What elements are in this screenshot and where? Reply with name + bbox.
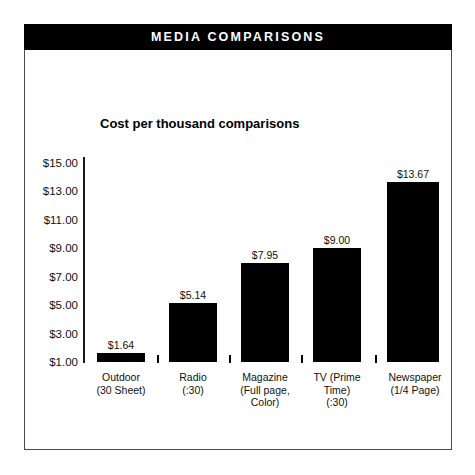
bar-radio[interactable] bbox=[169, 303, 217, 362]
category-line: Newspaper bbox=[377, 371, 453, 384]
x-axis-tick bbox=[229, 355, 231, 363]
bar-value-label: $5.14 bbox=[169, 289, 217, 301]
category-line: Outdoor bbox=[85, 371, 157, 384]
x-axis-tick bbox=[375, 355, 377, 363]
category-line: Radio bbox=[157, 371, 229, 384]
category-line: (1/4 Page) bbox=[377, 384, 453, 397]
category-line: (:30) bbox=[301, 396, 373, 409]
category-line: Color) bbox=[229, 396, 301, 409]
y-axis-tick-label: $15.00 bbox=[8, 157, 78, 169]
x-axis-tick bbox=[157, 355, 159, 363]
bar-chart-plot: $15.00 $13.00 $11.00 $9.00 $7.00 $5.00 $… bbox=[0, 0, 475, 475]
y-axis-tick-label: $3.00 bbox=[8, 328, 78, 340]
category-line: Time) bbox=[301, 384, 373, 397]
bar-value-label: $13.67 bbox=[387, 168, 439, 180]
category-line: (30 Sheet) bbox=[85, 384, 157, 397]
y-axis-tick-label: $11.00 bbox=[8, 214, 78, 226]
category-line: (:30) bbox=[157, 384, 229, 397]
bar-value-label: $7.95 bbox=[241, 249, 289, 261]
y-axis-tick-label: $1.00 bbox=[8, 356, 78, 368]
x-axis-category-label: TV (Prime Time) (:30) bbox=[301, 371, 373, 409]
y-axis-line bbox=[83, 157, 85, 363]
category-line: (Full page, bbox=[229, 384, 301, 397]
x-axis-category-label: Outdoor (30 Sheet) bbox=[85, 371, 157, 396]
y-axis-tick-label: $9.00 bbox=[8, 242, 78, 254]
x-axis-category-label: Newspaper (1/4 Page) bbox=[377, 371, 453, 396]
bar-newspaper[interactable] bbox=[387, 182, 439, 362]
y-axis-tick-label: $13.00 bbox=[8, 185, 78, 197]
category-line: Magazine bbox=[229, 371, 301, 384]
category-line: TV (Prime bbox=[301, 371, 373, 384]
x-axis-category-label: Radio (:30) bbox=[157, 371, 229, 396]
bar-magazine[interactable] bbox=[241, 263, 289, 362]
bar-tv[interactable] bbox=[313, 248, 361, 362]
x-axis-category-label: Magazine (Full page, Color) bbox=[229, 371, 301, 409]
bar-outdoor[interactable] bbox=[97, 353, 145, 362]
bar-value-label: $9.00 bbox=[313, 234, 361, 246]
y-axis-tick-label: $7.00 bbox=[8, 271, 78, 283]
x-axis-tick bbox=[301, 355, 303, 363]
bar-value-label: $1.64 bbox=[97, 339, 145, 351]
y-axis-tick-label: $5.00 bbox=[8, 299, 78, 311]
